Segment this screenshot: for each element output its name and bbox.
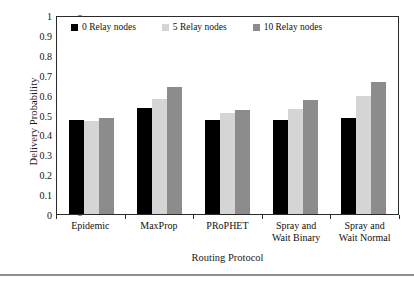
x-tick-mark (262, 215, 263, 219)
bar[interactable] (371, 82, 386, 214)
bar[interactable] (69, 120, 84, 214)
bar[interactable] (303, 100, 318, 214)
x-tick-label: Spray andWait Binary (262, 220, 331, 243)
legend-label: 5 Relay nodes (173, 23, 227, 33)
bar[interactable] (205, 120, 220, 214)
x-tick-label-line: Spray and (262, 220, 331, 232)
legend: 0 Relay nodes5 Relay nodes10 Relay nodes (71, 23, 322, 33)
legend-label: 0 Relay nodes (82, 23, 136, 33)
x-tick-label-line: Wait Binary (262, 232, 331, 244)
x-axis-title: Routing Protocol (56, 252, 399, 263)
y-axis-tick-labels: 00.10.20.30.40.50.60.70.80.91 (22, 12, 52, 216)
bar-groups (57, 17, 398, 214)
legend-swatch-icon (162, 24, 169, 31)
x-tick-label: Epidemic (56, 220, 125, 243)
x-tick-mark (56, 215, 57, 219)
legend-label: 10 Relay nodes (264, 23, 323, 33)
x-axis-tick-labels: EpidemicMaxPropPRoPHETSpray andWait Bina… (56, 220, 399, 243)
y-tick-label: 0.8 (22, 50, 52, 61)
x-tick-label: Spray andWait Normal (330, 220, 399, 243)
y-tick-label: 0.3 (22, 150, 52, 161)
bar[interactable] (235, 110, 250, 214)
y-tick-label: 0.2 (22, 170, 52, 181)
bar[interactable] (167, 87, 182, 214)
x-tick-label: MaxProp (125, 220, 194, 243)
x-tick-mark (330, 215, 331, 219)
bar[interactable] (273, 120, 288, 214)
bar[interactable] (84, 121, 99, 214)
bar[interactable] (137, 108, 152, 214)
y-tick-label: 1 (22, 11, 52, 22)
y-tick-label: 0.4 (22, 130, 52, 141)
bar-chart-figure: Delivery Probability 00.10.20.30.40.50.6… (0, 0, 414, 284)
bottom-divider (0, 274, 414, 276)
y-tick-label: 0 (22, 210, 52, 221)
y-tick-label: 0.9 (22, 30, 52, 41)
bar-group (330, 17, 398, 214)
bar-group (57, 17, 125, 214)
y-tick-label: 0.7 (22, 70, 52, 81)
bar[interactable] (99, 118, 114, 215)
bar[interactable] (341, 118, 356, 215)
y-tick-label: 0.1 (22, 190, 52, 201)
bar-group (193, 17, 261, 214)
bar[interactable] (356, 96, 371, 214)
bar-group (262, 17, 330, 214)
plot-inner: 0 Relay nodes5 Relay nodes10 Relay nodes (57, 17, 398, 214)
x-tick-label-line: PRoPHET (193, 220, 262, 232)
y-tick-label: 0.6 (22, 90, 52, 101)
bar-group (125, 17, 193, 214)
x-tick-mark (125, 215, 126, 219)
bar[interactable] (152, 99, 167, 214)
x-tick-label: PRoPHET (193, 220, 262, 243)
x-tick-mark (399, 215, 400, 219)
bar[interactable] (288, 109, 303, 214)
x-tick-label-line: Epidemic (56, 220, 125, 232)
legend-entry[interactable]: 0 Relay nodes (71, 23, 136, 33)
legend-swatch-icon (71, 24, 78, 31)
x-tick-mark (193, 215, 194, 219)
x-tick-label-line: Wait Normal (330, 232, 399, 244)
y-tick-label: 0.5 (22, 110, 52, 121)
x-tick-label-line: MaxProp (125, 220, 194, 232)
legend-entry[interactable]: 10 Relay nodes (253, 23, 323, 33)
bar[interactable] (220, 113, 235, 214)
legend-swatch-icon (253, 24, 260, 31)
x-tick-label-line: Spray and (330, 220, 399, 232)
legend-entry[interactable]: 5 Relay nodes (162, 23, 227, 33)
plot-area: 0 Relay nodes5 Relay nodes10 Relay nodes (56, 16, 399, 215)
